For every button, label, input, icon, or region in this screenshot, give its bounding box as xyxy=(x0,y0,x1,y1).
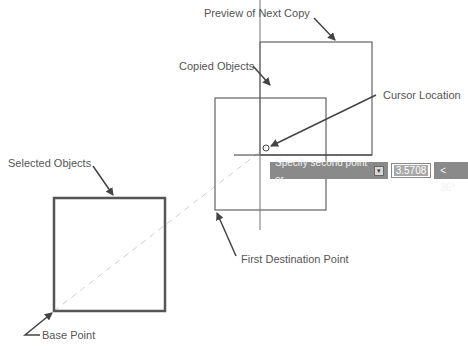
label-base-point: Base Point xyxy=(42,329,95,341)
preview-leader xyxy=(314,18,335,40)
down-arrow-icon[interactable]: ▾ xyxy=(374,166,383,176)
angle-input[interactable]: < 36° xyxy=(434,162,468,179)
selected-objects-square[interactable] xyxy=(54,198,165,311)
first-dest-leader xyxy=(217,213,236,256)
label-selected: Selected Objects xyxy=(8,157,91,169)
label-preview: Preview of Next Copy xyxy=(204,7,310,19)
dynamic-prompt: Specify second point or ▾ xyxy=(270,162,388,179)
cursor-leader xyxy=(271,95,376,146)
prompt-text: Specify second point or xyxy=(275,154,369,188)
copied-leader xyxy=(253,66,270,85)
rubber-band-line xyxy=(54,147,266,311)
label-first-destination: First Destination Point xyxy=(241,253,349,265)
distance-input[interactable]: 3.5708 xyxy=(391,163,432,178)
label-copied: Copied Objects xyxy=(179,60,254,72)
label-cursor: Cursor Location xyxy=(383,89,461,101)
distance-value: 3.5708 xyxy=(394,165,429,176)
selected-leader xyxy=(93,166,113,195)
dynamic-input[interactable]: Specify second point or ▾ 3.5708 < 36° xyxy=(270,162,468,179)
